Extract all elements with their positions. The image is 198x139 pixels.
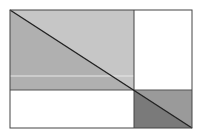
geometric-diagram bbox=[0, 0, 198, 139]
